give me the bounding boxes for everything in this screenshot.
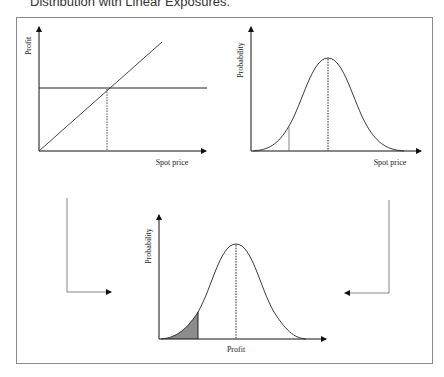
x-axis-label: Spot price xyxy=(374,158,407,167)
diagram-canvas: Profit Spot price Probability Spot price… xyxy=(0,0,444,377)
chart-spot-distribution: Probability Spot price xyxy=(236,27,421,167)
bell-curve xyxy=(253,58,404,151)
left-connector-arrow xyxy=(67,198,111,292)
y-axis-label: Probability xyxy=(236,42,245,78)
linear-exposure-line xyxy=(39,42,162,151)
bell-curve xyxy=(161,244,306,339)
right-connector-arrow xyxy=(345,200,389,293)
x-axis-label: Profit xyxy=(227,345,246,354)
x-axis-label: Spot price xyxy=(156,158,189,167)
y-axis-label: Profit xyxy=(24,36,33,55)
figure-frame xyxy=(17,18,433,364)
chart-profit-distribution: Probability Profit xyxy=(144,215,326,354)
y-axis-label: Probability xyxy=(144,228,153,264)
shaded-left-tail xyxy=(161,312,198,339)
chart-profit-vs-spot: Profit Spot price xyxy=(24,27,207,167)
